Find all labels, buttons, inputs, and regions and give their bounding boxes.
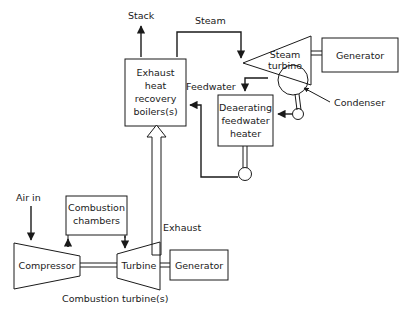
boiler-label-line4: boilers(s): [133, 106, 177, 117]
compressor-label: Compressor: [19, 260, 76, 271]
boiler-label-line3: recovery: [135, 93, 177, 104]
condensate-shaft-right: [299, 94, 301, 110]
combustion-chambers-label-line1: Combustion: [68, 202, 125, 213]
feedwater-pump-circle: [239, 168, 252, 181]
deaerator-label-line2: feedwater: [221, 115, 269, 126]
boiler-label-line1: Exhaust: [136, 67, 174, 78]
boiler-label-line2: heat: [145, 80, 167, 91]
stack-label: Stack: [128, 10, 155, 21]
generator-top-label: Generator: [336, 50, 384, 61]
combustion-chambers-label-line2: chambers: [73, 215, 120, 226]
generator-bottom-label: Generator: [175, 260, 223, 271]
exhaust-hollow-arrow: [147, 125, 166, 255]
schematic-svg: Stack Steam Feedwater Exhaust Air in Con…: [0, 0, 411, 310]
condensate-shaft-left: [295, 94, 297, 110]
steam-turbine-label-line2: turbine: [268, 60, 302, 71]
condensate-pump-circle: [293, 109, 304, 120]
steam-line: [177, 32, 241, 58]
diagram-caption: Combustion turbine(s): [62, 293, 168, 304]
condenser-leader-line: [304, 88, 330, 102]
feedwater-label: Feedwater: [186, 81, 236, 92]
steam-label: Steam: [195, 15, 226, 26]
air-in-label: Air in: [16, 192, 41, 203]
deaerator-label-line1: Deaerating: [219, 102, 272, 113]
deaerator-label-line3: heater: [230, 128, 261, 139]
exhaust-label: Exhaust: [163, 222, 201, 233]
condenser-label: Condenser: [334, 97, 385, 108]
extraction-steam-to-deaerator-line: [245, 78, 268, 91]
turbine-label: Turbine: [121, 260, 157, 271]
steam-turbine-label-line1: Steam: [270, 49, 301, 60]
cogeneration-plant-diagram: Stack Steam Feedwater Exhaust Air in Con…: [0, 0, 411, 310]
